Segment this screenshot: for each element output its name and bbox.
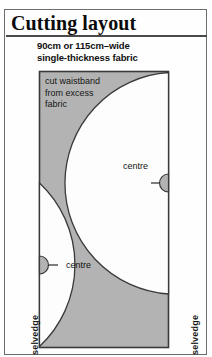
cutting-layout-figure-frame: Cutting layout 90cm or 115cm–wide single… (4, 9, 207, 355)
selvedge-label-left: selvedge (30, 315, 40, 355)
selvedge-label-right: selvedge (190, 315, 200, 355)
page-top-bleed-text: · · · ·· (26, 0, 69, 4)
waistband-note: cut waistband from excess fabric (45, 76, 100, 111)
figure-title: Cutting layout (11, 12, 136, 34)
waistband-note-line-1: cut waistband (45, 76, 100, 88)
waistband-note-line-3: fabric (45, 99, 100, 111)
fabric-width-label: 90cm or 115cm–wide (37, 40, 138, 52)
waistband-note-line-2: from excess (45, 88, 100, 100)
fabric-type-label: single-thickness fabric (37, 52, 138, 64)
title-divider (6, 35, 207, 37)
centre-label-upper: centre (123, 161, 148, 171)
page-top-bleed: · · · ·· (0, 0, 212, 8)
fabric-spec-heading: 90cm or 115cm–wide single-thickness fabr… (37, 40, 138, 63)
centre-label-lower: centre (66, 260, 91, 270)
